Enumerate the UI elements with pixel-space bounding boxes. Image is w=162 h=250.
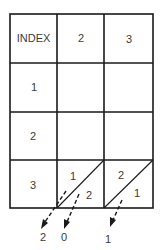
- result-digit: 0: [61, 231, 67, 243]
- lattice-diagram: INDEX 2 3 1 2 3 1 2 2 1 2 0 1: [0, 0, 162, 250]
- row-label-2: 2: [30, 130, 36, 142]
- dashed-arrow: [45, 191, 66, 222]
- header-col-2: 2: [78, 32, 84, 44]
- lattice-diagonal: [104, 160, 153, 208]
- arrow-head-icon: [110, 217, 116, 227]
- lattice-lower-digit: 1: [134, 187, 140, 199]
- lattice-lower-digit: 2: [86, 189, 92, 201]
- row-label-1: 1: [31, 81, 37, 93]
- row-label-3: 3: [30, 179, 36, 191]
- result-digit: 2: [40, 231, 46, 243]
- header-col-3: 3: [126, 33, 132, 45]
- lattice-upper-digit: 1: [70, 170, 76, 182]
- result-digit: 1: [105, 233, 111, 245]
- dashed-arrow: [113, 200, 122, 220]
- arrow-head-icon: [41, 219, 48, 229]
- header-index: INDEX: [17, 32, 51, 44]
- arrow-head-icon: [64, 219, 70, 229]
- lattice-upper-digit: 2: [118, 169, 124, 181]
- lattice-diagonal: [57, 160, 104, 208]
